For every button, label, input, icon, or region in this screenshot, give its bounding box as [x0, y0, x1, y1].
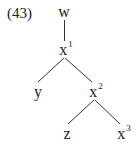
edge-x1-y: [38, 58, 64, 82]
node-y: y: [34, 84, 42, 100]
node-x1-label: x: [59, 41, 67, 58]
node-x1: x1: [59, 42, 73, 58]
node-x2-superscript: 2: [98, 81, 103, 91]
node-x2-label: x: [89, 83, 97, 100]
node-w-label: w: [58, 3, 70, 20]
node-x3-superscript: 3: [126, 123, 131, 133]
edge-x1-x2: [65, 58, 92, 82]
node-x2: x2: [89, 84, 103, 100]
node-y-label: y: [34, 83, 42, 100]
tree-edges: [0, 0, 136, 144]
node-w: w: [58, 4, 70, 20]
edge-x2-z: [68, 100, 94, 124]
node-z-label: z: [63, 125, 70, 142]
node-x3-label: x: [117, 125, 125, 142]
edge-x2-x3: [95, 100, 120, 124]
node-x1-superscript: 1: [68, 39, 73, 49]
node-x3: x3: [117, 126, 131, 142]
node-z: z: [63, 126, 70, 142]
